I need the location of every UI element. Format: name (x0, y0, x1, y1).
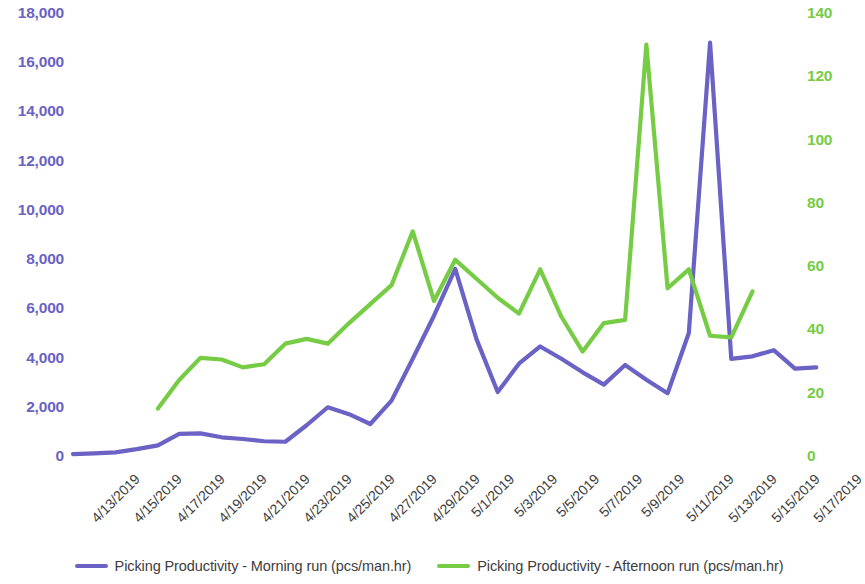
plot-lines (73, 13, 795, 456)
y-axis-left-tick: 0 (56, 448, 64, 464)
legend-swatch-icon (437, 564, 470, 568)
y-axis-right-tick: 140 (807, 5, 832, 21)
y-axis-left-tick: 6,000 (26, 301, 64, 317)
y-axis-left-tick: 2,000 (26, 399, 64, 415)
legend-label: Picking Productivity - Morning run (pcs/… (115, 558, 412, 574)
y-axis-right-tick: 0 (807, 448, 815, 464)
y-axis-right-tick: 20 (807, 385, 824, 401)
x-axis-tick: 5/7/2019 (596, 471, 645, 520)
y-axis-left-tick: 8,000 (26, 251, 64, 267)
y-axis-right: 020406080100120140 (807, 13, 858, 456)
x-axis: 4/13/20194/15/20194/17/20194/19/20194/21… (73, 456, 795, 566)
legend-item[interactable]: Picking Productivity - Afternoon run (pc… (437, 558, 783, 574)
y-axis-right-tick: 60 (807, 258, 824, 274)
y-axis-right-tick: 120 (807, 69, 832, 85)
legend-swatch-icon (75, 564, 108, 568)
plot-area (73, 13, 795, 456)
y-axis-left-tick: 4,000 (26, 350, 64, 366)
y-axis-left-tick: 18,000 (18, 5, 64, 21)
line-series-afternoon (158, 45, 753, 409)
y-axis-left-tick: 14,000 (18, 104, 64, 120)
y-axis-left-tick: 10,000 (18, 202, 64, 218)
y-axis-right-tick: 40 (807, 322, 824, 338)
legend-label: Picking Productivity - Afternoon run (pc… (477, 558, 783, 574)
line-series-morning (73, 43, 816, 455)
y-axis-right-tick: 100 (807, 132, 832, 148)
legend-item[interactable]: Picking Productivity - Morning run (pcs/… (75, 558, 412, 574)
x-axis-tick: 5/9/2019 (638, 471, 687, 520)
y-axis-right-tick: 80 (807, 195, 824, 211)
y-axis-left-tick: 16,000 (18, 54, 64, 70)
x-axis-tick: 5/5/2019 (553, 471, 602, 520)
y-axis-left: 02,0004,0006,0008,00010,00012,00014,0001… (0, 13, 64, 456)
x-axis-tick: 5/3/2019 (511, 471, 560, 520)
chart-legend: Picking Productivity - Morning run (pcs/… (0, 558, 858, 574)
y-axis-left-tick: 12,000 (18, 153, 64, 169)
